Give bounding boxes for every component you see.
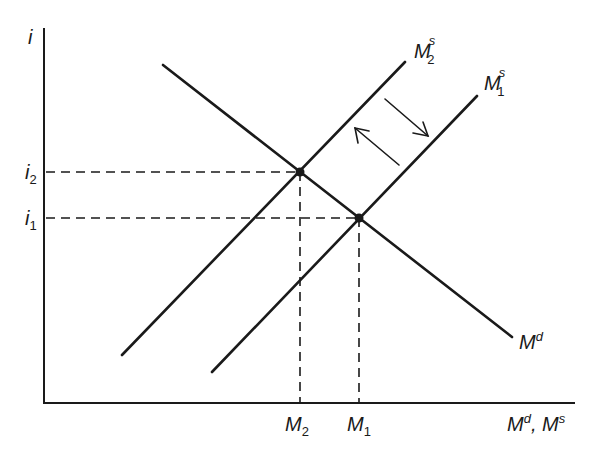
money-supply-2-label: Ms2 xyxy=(414,33,436,67)
y-axis-label: i xyxy=(28,26,33,48)
m2-label: M2 xyxy=(285,413,309,439)
equilibrium-point-1 xyxy=(355,214,364,223)
i1-label: i1 xyxy=(25,207,37,233)
arrow-up-left-icon xyxy=(355,128,399,165)
i2-label: i2 xyxy=(25,161,37,187)
money-market-diagram: i i2 i1 M2 M1 Md, Ms Ms2 Ms1 Md xyxy=(0,0,595,451)
money-demand-curve xyxy=(163,65,512,337)
equilibrium-point-2 xyxy=(296,168,305,177)
m1-label: M1 xyxy=(347,413,371,439)
money-supply-1-label: Ms1 xyxy=(484,65,506,99)
money-supply-1-curve xyxy=(212,96,477,372)
arrow-down-right-icon xyxy=(385,99,428,136)
money-demand-label: Md xyxy=(519,329,544,353)
x-axis-label: Md, Ms xyxy=(507,411,566,435)
money-supply-2-curve xyxy=(122,62,405,355)
